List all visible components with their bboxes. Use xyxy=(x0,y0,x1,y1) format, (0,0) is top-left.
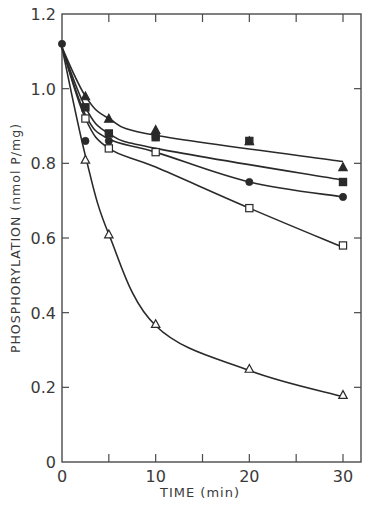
marker-open-square xyxy=(82,115,89,122)
chart-background xyxy=(0,0,372,508)
marker-open-square xyxy=(152,149,159,156)
x-tick-label: 0 xyxy=(57,467,67,486)
x-axis-label: TIME (min) xyxy=(159,485,240,500)
y-axis-label: PHOSPHORYLATION (nmol P/mg) xyxy=(8,123,23,353)
marker-filled-square xyxy=(82,104,89,111)
marker-filled-square xyxy=(105,130,112,137)
y-tick-label: 0.4 xyxy=(31,304,56,323)
marker-open-square xyxy=(339,242,346,249)
marker-open-square xyxy=(246,205,253,212)
marker-filled-square xyxy=(246,137,253,144)
y-tick-label: 0.2 xyxy=(31,378,56,397)
y-tick-label: 0.6 xyxy=(31,229,56,248)
marker-filled-circle xyxy=(105,137,112,144)
x-tick-label: 30 xyxy=(333,467,353,486)
y-tick-label: 1.2 xyxy=(31,5,56,24)
marker-filled-circle xyxy=(152,134,159,141)
y-tick-label: 0.8 xyxy=(31,154,56,173)
x-tick-label: 10 xyxy=(145,467,165,486)
marker-open-square xyxy=(105,145,112,152)
phosphorylation-time-chart: 00.20.40.60.81.01.20102030 TIME (min) PH… xyxy=(0,0,372,508)
marker-filled-circle xyxy=(339,193,346,200)
marker-filled-circle xyxy=(58,40,65,47)
y-tick-label: 1.0 xyxy=(31,80,56,99)
y-tick-label: 0 xyxy=(46,453,56,472)
marker-filled-square xyxy=(339,178,346,185)
marker-filled-circle xyxy=(82,137,89,144)
marker-filled-circle xyxy=(246,178,253,185)
x-tick-label: 20 xyxy=(239,467,259,486)
